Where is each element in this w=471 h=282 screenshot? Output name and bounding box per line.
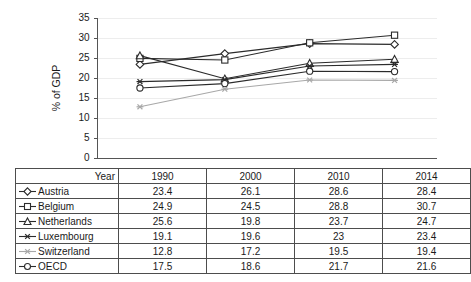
data-table: Year 1990 2000 2010 2014 Austria23.426.1… [15, 168, 471, 274]
series-name: Switzerland [38, 246, 90, 257]
table-cell: 17.5 [119, 259, 207, 274]
table-cell: 23.4 [119, 184, 207, 199]
series-line [140, 71, 395, 88]
table-row: Switzerland12.817.219.519.4 [16, 244, 471, 259]
table-cell: 28.8 [295, 199, 383, 214]
table-cell: 30.7 [383, 199, 471, 214]
table-cell: 23 [295, 229, 383, 244]
legend-circle-icon [19, 261, 36, 272]
legend-triangle-icon [19, 216, 36, 227]
y-axis-title: % of GDP [50, 65, 62, 112]
table-header-col-2010: 2010 [295, 169, 383, 184]
series-plot-area [136, 32, 398, 109]
y-axis-tick-label: 0 [84, 152, 90, 163]
circle-marker [222, 81, 228, 87]
series-line [140, 64, 395, 81]
table-row-label-oecd: OECD [16, 259, 119, 274]
table-row: Netherlands25.619.823.724.7 [16, 214, 471, 229]
diamond-marker [391, 41, 399, 49]
table-row: OECD17.518.621.721.6 [16, 259, 471, 274]
table-cell: 19.8 [207, 214, 295, 229]
table-cell: 26.1 [207, 184, 295, 199]
chart-figure: 05101520253035 % of GDP [0, 0, 449, 170]
legend-asterisk-icon [19, 246, 36, 257]
table-header-col-2014: 2014 [383, 169, 471, 184]
table-header-year: Year [16, 169, 119, 184]
circle-marker [391, 69, 397, 75]
asterisk-marker [137, 104, 144, 109]
legend-diamond-icon [19, 186, 36, 197]
square-marker [222, 57, 228, 63]
asterisk-marker [137, 79, 144, 84]
table-row: Austria23.426.128.628.4 [16, 184, 471, 199]
series-switzerland [137, 78, 398, 110]
table-row-label-luxembourg: Luxembourg [16, 229, 119, 244]
table-header-row: Year 1990 2000 2010 2014 [16, 169, 471, 184]
data-table-container: Year 1990 2000 2010 2014 Austria23.426.1… [15, 168, 437, 274]
table-cell: 23.7 [295, 214, 383, 229]
table-cell: 24.9 [119, 199, 207, 214]
table-row-label-switzerland: Switzerland [16, 244, 119, 259]
square-marker [307, 40, 313, 46]
table-cell: 21.7 [295, 259, 383, 274]
y-axis-tick-label: 30 [78, 32, 90, 43]
table-cell: 12.8 [119, 244, 207, 259]
y-axis-tick-label: 35 [78, 12, 90, 23]
table-cell: 24.5 [207, 199, 295, 214]
series-name: Austria [38, 186, 69, 197]
table-row: Belgium24.924.528.830.7 [16, 199, 471, 214]
y-axis-tick-label: 10 [78, 112, 90, 123]
table-header-col-2000: 2000 [207, 169, 295, 184]
table-cell: 18.6 [207, 259, 295, 274]
asterisk-marker [221, 87, 228, 92]
diamond-marker [221, 50, 229, 58]
table-row-label-netherlands: Netherlands [16, 214, 119, 229]
legend-square-icon [19, 201, 36, 212]
table-header-col-1990: 1990 [119, 169, 207, 184]
table-cell: 28.4 [383, 184, 471, 199]
table-row-label-austria: Austria [16, 184, 119, 199]
y-axis-tick-label: 20 [78, 72, 90, 83]
y-axis-tick-label: 25 [78, 52, 90, 63]
table-cell: 21.6 [383, 259, 471, 274]
series-name: Netherlands [38, 216, 92, 227]
series-austria [136, 40, 398, 68]
y-axis-tick-label: 15 [78, 92, 90, 103]
table-cell: 19.5 [295, 244, 383, 259]
y-axis-tick-labels: 05101520253035 [78, 12, 90, 163]
table-cell: 24.7 [383, 214, 471, 229]
table-cell: 19.6 [207, 229, 295, 244]
table-row: Luxembourg19.119.62323.4 [16, 229, 471, 244]
table-cell: 25.6 [119, 214, 207, 229]
series-line [140, 80, 395, 107]
series-name: OECD [38, 261, 67, 272]
circle-marker [137, 85, 143, 91]
circle-marker [307, 68, 313, 74]
table-cell: 17.2 [207, 244, 295, 259]
table-cell: 19.1 [119, 229, 207, 244]
table-cell: 19.4 [383, 244, 471, 259]
square-marker [391, 32, 397, 38]
table-cell: 23.4 [383, 229, 471, 244]
table-cell: 28.6 [295, 184, 383, 199]
y-axis-tick-label: 5 [84, 132, 90, 143]
series-name: Belgium [38, 201, 74, 212]
y-axis-ticks [94, 19, 98, 159]
table-body: Austria23.426.128.628.4Belgium24.924.528… [16, 184, 471, 274]
series-name: Luxembourg [38, 231, 94, 242]
table-row-label-belgium: Belgium [16, 199, 119, 214]
line-chart: 05101520253035 % of GDP [0, 0, 449, 170]
legend-asterisk-icon [19, 231, 36, 242]
